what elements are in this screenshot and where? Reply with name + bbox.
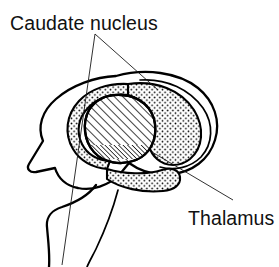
anatomy-figure: Caudate nucleus Thalamus xyxy=(0,0,279,267)
anatomy-diagram: Caudate nucleus Thalamus xyxy=(0,0,279,267)
thalamus-label: Thalamus xyxy=(188,207,275,229)
brainstem-outline xyxy=(47,185,118,267)
caudate-nucleus-label: Caudate nucleus xyxy=(10,12,158,34)
